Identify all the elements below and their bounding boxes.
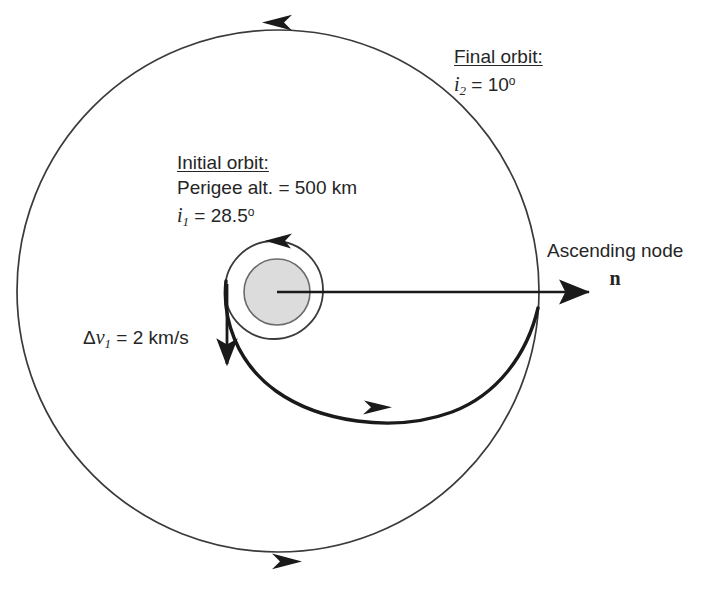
initial-orbit-direction-arrow — [265, 233, 292, 248]
initial-orbit-i-value: = 28.5 — [189, 205, 248, 226]
final-orbit-degree-symbol: o — [509, 74, 516, 88]
orbit-diagram — [0, 0, 701, 592]
ascending-node-text: Ascending node — [547, 238, 683, 263]
delta-v-expression: Δv1 = 2 km/s — [83, 326, 189, 348]
delta-v-symbol: v — [96, 326, 105, 348]
ascending-node-vector-symbol: n — [547, 266, 683, 291]
delta-v-value: = 2 km/s — [111, 327, 189, 348]
transfer-arc-direction-arrow — [363, 401, 392, 415]
initial-orbit-perigee: Perigee alt. = 500 km — [177, 175, 357, 200]
ascending-node-label: Ascending node n — [547, 238, 683, 291]
initial-orbit-title: Initial orbit: — [177, 150, 357, 175]
delta-symbol: Δ — [83, 327, 96, 348]
final-orbit-title: Final orbit: — [454, 44, 543, 69]
final-orbit-inclination: i2 = 10o — [454, 69, 543, 103]
final-orbit-i-value: = 10 — [466, 74, 509, 95]
final-orbit-top-direction-arrow — [262, 15, 292, 31]
delta-v-label: Δv1 = 2 km/s — [83, 325, 189, 356]
initial-orbit-degree-symbol: o — [248, 205, 255, 219]
initial-orbit-label: Initial orbit: Perigee alt. = 500 km i1 … — [177, 150, 357, 234]
final-orbit-label: Final orbit: i2 = 10o — [454, 44, 543, 103]
final-orbit-bottom-direction-arrow — [272, 554, 302, 570]
initial-orbit-inclination: i1 = 28.5o — [177, 200, 357, 234]
